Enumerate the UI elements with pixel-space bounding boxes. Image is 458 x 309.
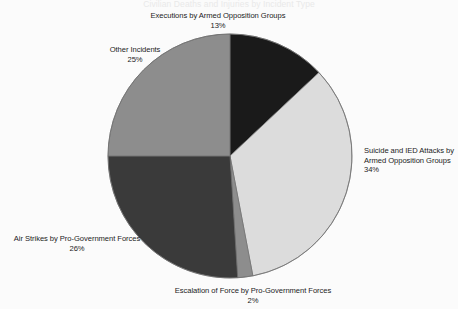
slice-label-suicide-ied-line2: Armed Opposition Groups xyxy=(364,156,451,165)
slice-label-air-strikes-line1: Air Strikes by Pro-Government Forces xyxy=(14,234,141,243)
slice-label-executions-value: 13% xyxy=(151,21,286,31)
pie-chart-figure: Civilian Deaths and Injuries by Incident… xyxy=(0,0,458,309)
slice-label-escalation-of-force: Escalation of Force by Pro-Government Fo… xyxy=(175,286,332,305)
slice-label-air-strikes: Air Strikes by Pro-Government Forces 26% xyxy=(14,234,141,253)
slice-label-air-strikes-value: 26% xyxy=(14,244,141,254)
pie-slice-3[interactable] xyxy=(108,156,238,278)
slice-label-other-incidents-value: 25% xyxy=(110,55,161,65)
slice-label-executions-line1: Executions by Armed Opposition Groups xyxy=(151,11,286,20)
slice-label-suicide-ied-value: 34% xyxy=(364,165,454,175)
slice-label-escalation-of-force-value: 2% xyxy=(175,296,332,306)
slice-label-other-incidents: Other Incidents 25% xyxy=(110,45,161,64)
slice-label-suicide-ied: Suicide and IED Attacks by Armed Opposit… xyxy=(364,146,454,175)
slice-label-other-incidents-line1: Other Incidents xyxy=(110,45,161,54)
slice-label-escalation-of-force-line1: Escalation of Force by Pro-Government Fo… xyxy=(175,286,332,295)
slice-label-suicide-ied-line1: Suicide and IED Attacks by xyxy=(364,146,454,155)
slice-label-executions: Executions by Armed Opposition Groups 13… xyxy=(151,11,286,30)
